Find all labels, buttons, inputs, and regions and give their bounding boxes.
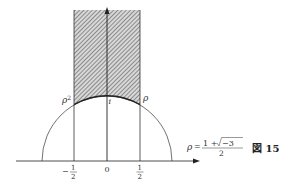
svg-text:2: 2 xyxy=(219,149,224,158)
tick-zero: 0 xyxy=(105,165,110,174)
label-rho: ρ xyxy=(142,93,149,103)
tick-neg-half: − 1 2 xyxy=(62,164,77,181)
figure-caption: 図 15 xyxy=(252,140,279,155)
svg-text:1 +: 1 + xyxy=(203,139,217,148)
svg-text:−3: −3 xyxy=(222,139,234,148)
label-i: i xyxy=(109,97,112,106)
svg-text:2: 2 xyxy=(71,173,75,181)
fundamental-domain-diagram: ρ2 i ρ − 1 2 0 1 2 ρ = 1 + −3 2 xyxy=(0,0,288,191)
svg-text:2: 2 xyxy=(138,173,142,181)
svg-text:1: 1 xyxy=(138,164,142,172)
tick-pos-half: 1 2 xyxy=(137,164,144,181)
svg-text:1: 1 xyxy=(71,164,75,172)
svg-text:ρ: ρ xyxy=(186,142,193,152)
figure-caption-prefix: 図 xyxy=(252,143,262,154)
rho-formula: ρ = 1 + −3 2 xyxy=(186,138,243,159)
real-axis-arrow-icon xyxy=(193,159,200,164)
svg-text:=: = xyxy=(194,142,201,151)
figure-caption-number: 15 xyxy=(265,143,279,154)
label-rho-squared: ρ2 xyxy=(61,94,71,105)
svg-text:−: − xyxy=(62,167,69,176)
